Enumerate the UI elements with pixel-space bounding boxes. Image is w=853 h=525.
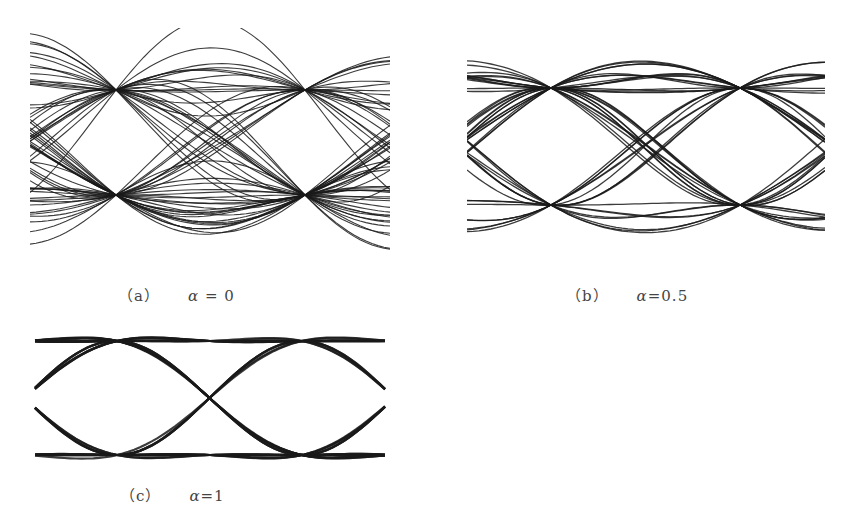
caption-b: （b）α=0.5 bbox=[566, 284, 688, 305]
caption-c-value: =1 bbox=[201, 487, 225, 505]
caption-c-label: （c） bbox=[120, 487, 161, 505]
eye-diagram-c-plot bbox=[0, 0, 430, 525]
caption-c: （c）α=1 bbox=[120, 484, 225, 505]
eye-diagram-c bbox=[0, 0, 430, 525]
caption-b-alpha: α bbox=[637, 287, 648, 305]
caption-b-value: =0.5 bbox=[648, 287, 688, 305]
caption-c-alpha: α bbox=[189, 487, 200, 505]
caption-b-label: （b） bbox=[566, 287, 609, 305]
